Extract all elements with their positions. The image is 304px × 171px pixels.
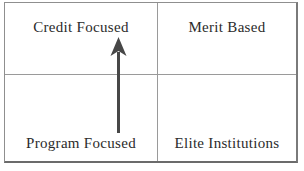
quadrant-matrix: Credit Focused Merit Based Program Focus… bbox=[4, 2, 298, 163]
quadrant-label-merit-based: Merit Based bbox=[188, 18, 265, 36]
quadrant-top-left: Credit Focused bbox=[5, 3, 158, 75]
quadrant-label-credit-focused: Credit Focused bbox=[33, 18, 128, 36]
quadrant-bottom-left: Program Focused bbox=[5, 75, 158, 161]
quadrant-bottom-right: Elite Institutions bbox=[158, 75, 296, 161]
quadrant-label-program-focused: Program Focused bbox=[26, 134, 136, 152]
quadrant-top-right: Merit Based bbox=[158, 3, 296, 75]
quadrant-diagram: Credit Focused Merit Based Program Focus… bbox=[0, 0, 304, 171]
quadrant-label-elite-institutions: Elite Institutions bbox=[175, 134, 280, 152]
